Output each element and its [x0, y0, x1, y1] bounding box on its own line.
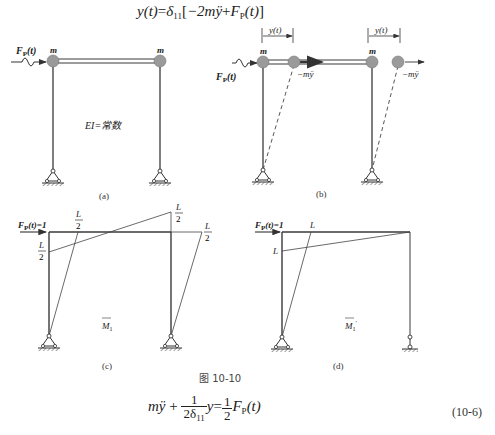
eq-bot-yddot: ÿ — [159, 398, 166, 414]
mass-left-icon — [257, 56, 269, 68]
mass-label: m — [50, 45, 57, 55]
pin-support-icon — [252, 168, 274, 185]
equation-number: (10-6) — [452, 405, 482, 420]
pin-support-icon — [42, 169, 64, 186]
ordinate-label: L 2 — [175, 202, 183, 224]
ordinate-label: L — [309, 220, 315, 230]
displaced-mass-left-icon — [288, 56, 300, 68]
figure-caption: 图 10-10 — [199, 373, 241, 384]
displacement-label: y(t) — [268, 25, 282, 35]
figure-10-10: FP(t) m m EI=常数 (a) y(t) y(t) FP(t) — [0, 0, 495, 435]
svg-text:L: L — [75, 209, 81, 219]
mass-label: m — [369, 46, 376, 56]
moment-diagram-label: M1 — [101, 321, 113, 332]
ordinate-label: L — [272, 246, 278, 256]
ordinate-label: L 2 — [75, 209, 83, 231]
pin-support-icon — [271, 335, 293, 352]
stiffness-label: EI=常数 — [84, 120, 123, 131]
svg-text:2: 2 — [205, 233, 210, 243]
displacement-label: y(t) — [374, 25, 388, 35]
svg-text:2: 2 — [176, 214, 181, 224]
ordinate-label: L 2 — [204, 221, 212, 243]
fraction-1-over-2delta11: 12δ11 — [181, 393, 206, 423]
panel-d-label: (d) — [333, 361, 344, 371]
pin-support-icon — [38, 334, 60, 351]
force-label-c: FP(t)=1 — [17, 220, 46, 232]
mass-left-icon — [47, 55, 59, 67]
eq-bot-plus: + — [169, 398, 177, 414]
svg-text:L: L — [38, 240, 44, 250]
displaced-mass-right-icon — [392, 56, 404, 68]
svg-text:2: 2 — [39, 252, 44, 262]
panel-d: FP(t)=1 L L M1′ (d) — [254, 220, 418, 371]
mass-label: m — [157, 45, 164, 55]
eq-bot-m: m — [148, 398, 159, 414]
dynamic-load-arrow-icon — [11, 58, 46, 66]
svg-text:L: L — [175, 202, 181, 212]
pin-support-icon — [149, 169, 171, 186]
eq-bot-force: F — [232, 398, 241, 414]
pin-support-icon — [361, 168, 383, 185]
panel-b: y(t) y(t) FP(t) m m −mÿ −mÿ (b) — [215, 25, 424, 199]
panel-a-label: (a) — [99, 191, 109, 201]
panel-c-label: (c) — [102, 361, 112, 371]
roller-support-icon — [402, 335, 418, 352]
dynamic-load-arrow-icon — [232, 59, 257, 67]
force-label-d: FP(t)=1 — [254, 220, 283, 232]
panel-a: FP(t) m m EI=常数 (a) — [11, 45, 171, 201]
eq-bot-equals: = — [213, 398, 221, 414]
ordinate-label: L 2 — [38, 240, 46, 262]
panel-b-label: (b) — [316, 189, 327, 199]
mass-right-icon — [366, 56, 378, 68]
panel-c: FP(t)=1 L 2 L 2 L 2 L 2 M1 — [17, 202, 212, 371]
inertia-label: −mÿ — [402, 69, 419, 79]
mass-label: m — [260, 46, 267, 56]
force-label-b: FP(t) — [215, 71, 236, 84]
fraction-1-over-2: 12 — [222, 395, 233, 422]
pin-support-icon — [160, 334, 182, 351]
svg-text:2: 2 — [76, 221, 81, 231]
svg-text:L: L — [204, 221, 210, 231]
eq-bot-force-arg: (t) — [247, 398, 261, 414]
force-label-a: FP(t) — [15, 45, 36, 58]
inertia-label: −mÿ — [297, 69, 314, 79]
equation-bottom: mÿ + 12δ11y=12FP(t) — [148, 393, 261, 423]
mass-right-icon — [154, 55, 166, 67]
moment-diagram-label: M1′ — [344, 319, 358, 332]
